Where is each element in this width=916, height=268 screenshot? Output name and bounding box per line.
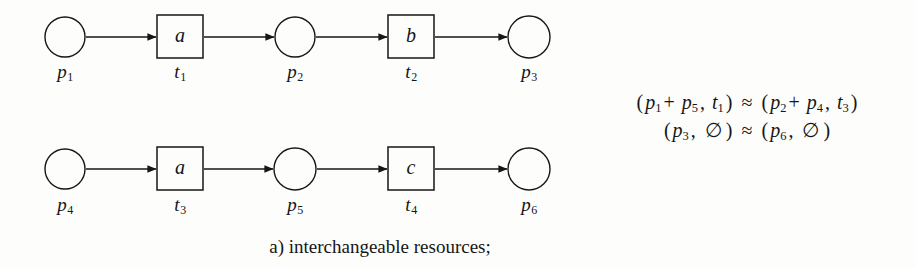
line2-term2-sub: 6 — [780, 129, 786, 143]
line1-term6: t — [837, 91, 843, 113]
node-label-p3-sub: 3 — [531, 70, 537, 84]
transition-letter-t1: a — [157, 25, 203, 45]
top-row-group — [45, 15, 550, 58]
node-label-p1-base: p — [57, 61, 67, 82]
line1-term4-sub: 2 — [780, 101, 786, 115]
node-label-p3: p3 — [509, 62, 549, 81]
node-label-t3-base: t — [174, 194, 179, 215]
line1-term2: p — [682, 91, 692, 113]
node-label-p1: p1 — [45, 62, 85, 81]
node-label-p4-sub: 4 — [67, 203, 73, 217]
node-label-p3-base: p — [521, 61, 531, 82]
line1-plus: + — [661, 91, 676, 113]
place-p4 — [45, 149, 85, 189]
node-label-p1-sub: 1 — [67, 70, 73, 84]
line2-term1: p — [673, 119, 683, 141]
node-label-t2-sub: 2 — [411, 70, 417, 84]
line2-comma2: , — [786, 119, 795, 141]
node-label-t2: t2 — [391, 62, 431, 81]
node-label-t3: t3 — [160, 195, 200, 214]
node-label-t1-base: t — [174, 61, 179, 82]
node-label-p5-sub: 5 — [297, 203, 303, 217]
line2-right-close: ) — [821, 119, 832, 141]
line1-term2-sub: 5 — [692, 101, 698, 115]
node-label-p4: p4 — [45, 195, 85, 214]
line1-left-paren: ( — [635, 91, 646, 113]
relation-line-1: (p1+ p5, t1) ≈ (p2+ p4, t3) — [578, 90, 916, 118]
line2-comma1: , — [689, 119, 698, 141]
line1-comma2: , — [823, 91, 832, 113]
node-label-t2-base: t — [405, 61, 410, 82]
place-p5 — [274, 148, 316, 190]
place-p1 — [45, 17, 85, 57]
line1-term1-sub: 1 — [655, 101, 661, 115]
line2-term1-sub: 3 — [683, 129, 689, 143]
figure-interchangeable-resources: a b a c p1 t1 p2 t2 p3 p4 t3 p5 t4 p6 (p… — [0, 0, 916, 268]
line1-relation-symbol: ≈ — [740, 91, 755, 113]
line2-left-close: ) — [724, 119, 735, 141]
relation-line-2: (p3, ∅) ≈ (p6, ∅) — [578, 118, 916, 146]
line1-term3: t — [712, 91, 718, 113]
node-label-t4: t4 — [391, 195, 431, 214]
line1-comma1: , — [698, 91, 707, 113]
node-label-t1: t1 — [160, 62, 200, 81]
line2-relation-symbol: ≈ — [740, 119, 755, 141]
node-label-p6-base: p — [521, 194, 531, 215]
line1-term5: p — [807, 91, 817, 113]
line2-emptyset-1: ∅ — [703, 119, 724, 141]
line2-right-paren: ( — [759, 119, 770, 141]
figure-caption: a) interchangeable resources; — [0, 236, 916, 258]
node-label-t4-sub: 4 — [411, 203, 417, 217]
node-label-t4-base: t — [405, 194, 410, 215]
node-label-p2: p2 — [275, 62, 315, 81]
line2-emptyset-2: ∅ — [800, 119, 821, 141]
line1-right-paren: ( — [759, 91, 770, 113]
node-label-p2-base: p — [287, 61, 297, 82]
node-label-t1-sub: 1 — [180, 70, 186, 84]
line2-left-paren: ( — [662, 119, 673, 141]
transition-letter-t4: c — [388, 157, 434, 177]
node-label-p2-sub: 2 — [297, 70, 303, 84]
place-p6 — [508, 148, 550, 190]
place-p2 — [275, 17, 315, 57]
line1-term6-sub: 3 — [843, 101, 849, 115]
line1-right-close: ) — [849, 91, 860, 113]
line1-term5-sub: 4 — [817, 101, 823, 115]
node-label-p5-base: p — [287, 194, 297, 215]
place-p3 — [508, 16, 550, 58]
line2-term2: p — [770, 119, 780, 141]
transition-letter-t2: b — [388, 25, 434, 45]
node-label-t3-sub: 3 — [180, 203, 186, 217]
node-label-p4-base: p — [57, 194, 67, 215]
line1-term4: p — [770, 91, 780, 113]
line1-plus2: + — [786, 91, 801, 113]
bottom-row-group — [45, 147, 550, 190]
line1-term3-sub: 1 — [718, 101, 724, 115]
node-label-p6: p6 — [509, 195, 549, 214]
node-label-p6-sub: 6 — [531, 203, 537, 217]
figure-caption-text: a) interchangeable resources; — [269, 236, 491, 257]
line1-term1: p — [645, 91, 655, 113]
relation-formulas: (p1+ p5, t1) ≈ (p2+ p4, t3) (p3, ∅) ≈ (p… — [578, 90, 916, 146]
transition-letter-t3: a — [157, 157, 203, 177]
node-label-p5: p5 — [275, 195, 315, 214]
line1-left-close: ) — [724, 91, 735, 113]
